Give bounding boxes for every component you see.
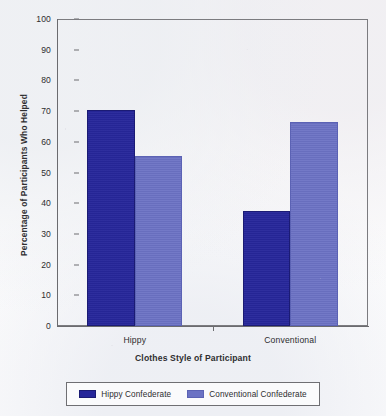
x-axis-title: Clothes Style of Participant [0,353,386,363]
bar-chart: Percentage of Participants Who Helped 01… [0,0,386,416]
y-axis-line [57,19,58,327]
y-tick-label: 20 [25,260,51,270]
legend-label: Conventional Confederate [209,390,307,399]
y-tick-label: 80 [25,75,51,85]
bar [135,156,183,326]
y-tick-label: 50 [25,168,51,178]
bar [290,122,338,326]
bar [87,110,135,326]
chart-legend: Hippy Confederate Conventional Confedera… [66,382,320,406]
y-tick-label: 10 [25,290,51,300]
x-tick-label: Hippy [123,335,146,345]
y-tick-label: 0 [25,321,51,331]
legend-label: Hippy Confederate [101,390,171,399]
y-tick-label: 30 [25,229,51,239]
y-tick-label: 40 [25,198,51,208]
light-blue-swatch-icon [187,390,204,398]
legend-item-hippy-confederate: Hippy Confederate [79,390,171,399]
y-tick-label: 70 [25,106,51,116]
y-tick-label: 100 [25,14,51,24]
y-tick-label: 90 [25,45,51,55]
dark-blue-swatch-icon [79,390,96,398]
bar [243,211,291,326]
x-tick-mark [213,326,214,331]
legend-item-conventional-confederate: Conventional Confederate [187,390,307,399]
y-tick-label: 60 [25,137,51,147]
x-tick-label: Conventional [264,335,316,345]
